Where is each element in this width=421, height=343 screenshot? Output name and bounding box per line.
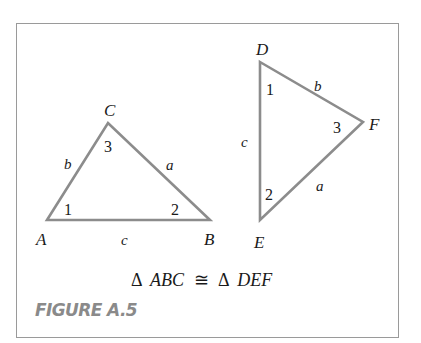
- side-label-b-abc: b: [64, 156, 72, 172]
- angle-label-1-abc: 1: [64, 201, 72, 218]
- delta-symbol-2: Δ: [218, 270, 229, 290]
- side-label-b-def: b: [314, 78, 322, 94]
- figure-caption: FIGURE A.5: [35, 300, 137, 320]
- vertex-label-a: A: [35, 230, 47, 249]
- angle-label-3-abc: 3: [104, 138, 112, 155]
- side-label-a-abc: a: [166, 157, 174, 173]
- angle-label-3-def: 3: [333, 119, 341, 136]
- angle-label-2-abc: 2: [171, 201, 179, 218]
- angle-label-1-def: 1: [266, 81, 274, 98]
- congruent-triangles-diagram: A B C b a c 1 2 3 D E F b c a 1 3 2 Δ AB…: [0, 0, 421, 343]
- vertex-label-b: B: [204, 230, 215, 249]
- vertex-label-d: D: [255, 40, 269, 59]
- congruence-statement: Δ ABC ≅ Δ DEF: [131, 270, 273, 290]
- side-label-c-def: c: [241, 134, 248, 150]
- vertex-label-c: C: [104, 101, 116, 120]
- triangle-name-abc: ABC: [149, 270, 185, 290]
- delta-symbol-1: Δ: [131, 270, 142, 290]
- triangle-def-shape: [260, 62, 363, 220]
- triangle-abc: A B C b a c 1 2 3: [35, 101, 215, 249]
- triangle-def: D E F b c a 1 3 2: [241, 40, 380, 252]
- congruent-symbol: ≅: [194, 270, 209, 290]
- side-label-a-def: a: [316, 178, 324, 194]
- vertex-label-f: F: [368, 115, 380, 134]
- triangle-name-def: DEF: [236, 270, 273, 290]
- side-label-c-abc: c: [121, 232, 128, 248]
- vertex-label-e: E: [253, 233, 265, 252]
- angle-label-2-def: 2: [265, 186, 273, 203]
